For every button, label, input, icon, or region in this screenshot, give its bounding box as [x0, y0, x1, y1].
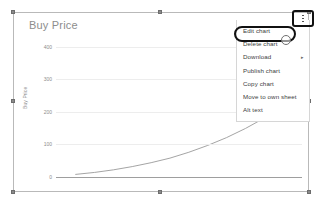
y-tick-label: 300: [44, 76, 52, 82]
y-tick-label: 400: [44, 44, 52, 50]
gridline: [56, 144, 302, 145]
menu-item-label: Move to own sheet: [243, 93, 297, 100]
selection-handle-bottom-left[interactable]: [11, 190, 15, 194]
selection-handle-top-center[interactable]: [158, 10, 162, 14]
y-axis-title: Buy Price: [22, 87, 28, 109]
y-tick-label: 0: [49, 174, 52, 180]
menu-item-label: Download: [243, 53, 271, 60]
menu-item-label: Delete chart: [243, 40, 278, 47]
menu-item-move-to-own-sheet[interactable]: Move to own sheet: [237, 90, 309, 103]
menu-item-alt-text[interactable]: Alt text: [237, 103, 309, 116]
menu-item-label: Alt text: [243, 106, 263, 113]
chart-context-menu[interactable]: Edit chartDelete chartDownload▸Publish c…: [236, 20, 310, 122]
menu-item-label: Copy chart: [243, 80, 274, 87]
selection-handle-bottom-right[interactable]: [307, 190, 311, 194]
mouse-cursor-indicator: [281, 35, 291, 45]
menu-item-publish-chart[interactable]: Publish chart: [237, 64, 309, 77]
chevron-right-icon: ▸: [301, 54, 304, 60]
selection-handle-top-left[interactable]: [11, 10, 15, 14]
kebab-dot: [302, 15, 303, 16]
axis-baseline: [56, 177, 302, 178]
menu-item-copy-chart[interactable]: Copy chart: [237, 77, 309, 90]
kebab-dot: [302, 21, 303, 22]
y-tick-label: 200: [44, 109, 52, 115]
selection-handle-bottom-center[interactable]: [158, 190, 162, 194]
menu-item-download[interactable]: Download▸: [237, 50, 309, 63]
menu-item-label: Publish chart: [243, 67, 280, 74]
menu-item-label: Edit chart: [243, 27, 270, 34]
y-tick-label: 100: [44, 141, 52, 147]
kebab-dot: [302, 18, 303, 19]
more-options-kebab-icon[interactable]: [292, 10, 314, 27]
chart-title: Buy Price: [29, 19, 78, 31]
menu-item-delete-chart[interactable]: Delete chart: [237, 37, 309, 50]
selection-handle-middle-left[interactable]: [11, 99, 15, 103]
